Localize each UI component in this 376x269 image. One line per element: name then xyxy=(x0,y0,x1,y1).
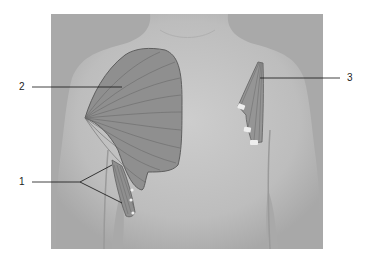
tendon-tip xyxy=(130,188,133,191)
label-2: 2 xyxy=(19,82,25,92)
anatomy-figure xyxy=(0,0,376,269)
tendon-tip xyxy=(129,198,132,201)
tendon-tip xyxy=(131,211,134,214)
tendon-tip xyxy=(250,140,258,145)
label-1: 1 xyxy=(19,177,25,187)
label-3: 3 xyxy=(347,73,353,83)
